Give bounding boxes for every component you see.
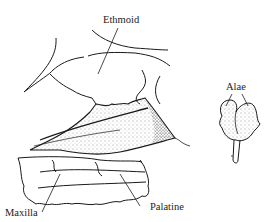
ethmoid-region <box>24 28 170 104</box>
stippled-bone <box>30 98 190 154</box>
label-ethmoid: Ethmoid <box>103 15 139 26</box>
alae-bone <box>220 94 260 163</box>
label-palatine: Palatine <box>150 202 184 213</box>
label-alae: Alae <box>226 82 246 93</box>
label-maxilla: Maxilla <box>5 208 38 219</box>
maxilla-palatine-plates <box>18 157 149 212</box>
